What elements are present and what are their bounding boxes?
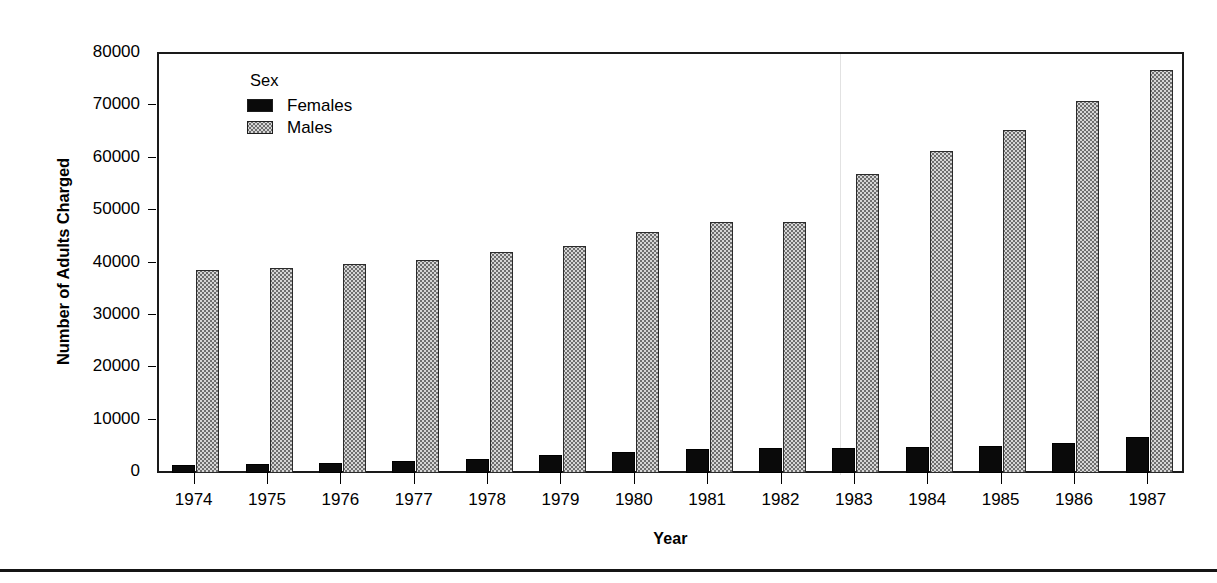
x-axis-tick-label: 1983 — [814, 489, 894, 510]
x-axis-tick-label: 1978 — [447, 489, 527, 510]
y-axis-tick-mark — [148, 262, 156, 263]
bottom-rule — [0, 569, 1217, 572]
x-axis-tick-marks — [157, 473, 1184, 485]
bar-group — [466, 54, 513, 473]
bar-females-1984 — [906, 447, 929, 473]
legend-title: Sex — [250, 72, 437, 89]
y-axis-tick-label: 30000 — [48, 305, 140, 322]
bar-males-1975 — [270, 268, 293, 473]
y-axis-tick-mark — [148, 157, 156, 158]
x-axis-tick-label: 1986 — [1034, 489, 1114, 510]
y-axis-tick-label: 10000 — [48, 410, 140, 427]
x-axis-tick-mark — [340, 473, 341, 484]
x-axis-tick-label: 1985 — [961, 489, 1041, 510]
bar-females-1974 — [172, 465, 195, 473]
bar-group — [1052, 54, 1099, 473]
bar-group — [612, 54, 659, 473]
y-axis-tick-mark — [148, 209, 156, 210]
legend-label: Females — [287, 97, 352, 114]
bar-males-1978 — [490, 252, 513, 473]
y-axis-tick-label: 20000 — [48, 357, 140, 374]
x-axis-tick-mark — [1147, 473, 1148, 484]
bar-group — [832, 54, 879, 473]
x-axis-tick-mark — [854, 473, 855, 484]
legend-entries: FemalesMales — [247, 95, 437, 139]
bar-females-1980 — [612, 452, 635, 473]
bar-males-1980 — [636, 232, 659, 473]
x-axis-tick-mark — [487, 473, 488, 484]
x-axis-tick-label: 1981 — [667, 489, 747, 510]
legend-swatch-females — [247, 99, 273, 112]
bar-females-1979 — [539, 455, 562, 473]
x-axis-tick-mark — [560, 473, 561, 484]
bar-males-1983 — [856, 174, 879, 473]
y-axis-tick-mark — [148, 314, 156, 315]
x-axis-tick-mark — [1001, 473, 1002, 484]
x-axis-tick-label: 1975 — [227, 489, 307, 510]
legend-label: Males — [287, 119, 332, 136]
bar-males-1986 — [1076, 101, 1099, 473]
x-axis-tick-label: 1987 — [1107, 489, 1187, 510]
y-axis-tick-label: 70000 — [48, 95, 140, 112]
bar-males-1981 — [710, 222, 733, 473]
bar-females-1982 — [759, 448, 782, 473]
bar-group — [686, 54, 733, 473]
legend-entry-males: Males — [247, 117, 437, 139]
bar-females-1975 — [246, 464, 269, 473]
bar-group — [539, 54, 586, 473]
x-axis-tick-label: 1974 — [154, 489, 234, 510]
y-axis-tick-mark — [148, 104, 156, 105]
x-axis-tick-mark — [781, 473, 782, 484]
x-axis-tick-label: 1980 — [594, 489, 674, 510]
bar-males-1979 — [563, 246, 586, 473]
x-axis-tick-mark — [267, 473, 268, 484]
y-axis-tick-mark — [148, 366, 156, 367]
x-axis-title: Year — [157, 530, 1184, 548]
x-axis-tick-mark — [707, 473, 708, 484]
bar-males-1985 — [1003, 130, 1026, 473]
bar-group — [172, 54, 219, 473]
x-axis-tick-mark — [194, 473, 195, 484]
x-axis-tick-mark — [414, 473, 415, 484]
bar-group — [1126, 54, 1173, 473]
legend-swatch-males — [247, 121, 273, 134]
x-axis-tick-label: 1977 — [374, 489, 454, 510]
bar-males-1974 — [196, 270, 219, 473]
bar-females-1987 — [1126, 437, 1149, 473]
x-axis-tick-label: 1976 — [300, 489, 380, 510]
bar-females-1977 — [392, 461, 415, 473]
legend: Sex FemalesMales — [247, 72, 437, 139]
y-axis-tick-label: 80000 — [48, 43, 140, 60]
y-axis-tick-label: 60000 — [48, 148, 140, 165]
y-axis-tick-labels: 0100002000030000400005000060000700008000… — [48, 0, 140, 583]
bar-males-1982 — [783, 222, 806, 473]
y-axis-tick-mark — [148, 419, 156, 420]
bar-females-1978 — [466, 459, 489, 473]
x-axis-tick-mark — [927, 473, 928, 484]
bar-group — [906, 54, 953, 473]
y-axis-tick-label: 0 — [48, 462, 140, 479]
y-axis-tick-label: 40000 — [48, 253, 140, 270]
bar-females-1983 — [832, 448, 855, 473]
x-axis-tick-mark — [634, 473, 635, 484]
bar-group — [979, 54, 1026, 473]
bar-males-1977 — [416, 260, 439, 473]
x-axis-tick-mark — [1074, 473, 1075, 484]
bar-males-1987 — [1150, 70, 1173, 473]
y-axis-tick-label: 50000 — [48, 200, 140, 217]
x-axis-tick-labels: 1974197519761977197819791980198119821983… — [157, 489, 1184, 515]
bar-females-1976 — [319, 463, 342, 473]
bar-chart-figure: Number of Adults Charged 010000200003000… — [0, 0, 1217, 583]
legend-entry-females: Females — [247, 95, 437, 117]
x-axis-tick-label: 1984 — [887, 489, 967, 510]
bar-females-1981 — [686, 449, 709, 473]
bar-males-1976 — [343, 264, 366, 473]
x-axis-tick-label: 1979 — [520, 489, 600, 510]
bar-females-1986 — [1052, 443, 1075, 473]
bar-males-1984 — [930, 151, 953, 473]
x-axis-tick-label: 1982 — [741, 489, 821, 510]
bar-group — [759, 54, 806, 473]
bar-females-1985 — [979, 446, 1002, 473]
